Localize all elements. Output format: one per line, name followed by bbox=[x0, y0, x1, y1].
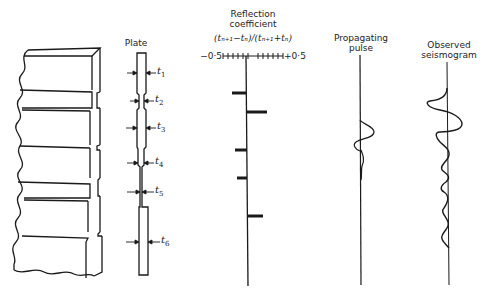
reflection-title-line1: Reflection bbox=[220, 9, 286, 19]
reflection-axis bbox=[223, 53, 283, 286]
observed-seismogram-trace bbox=[427, 62, 462, 285]
reflection-formula: (tₙ₊₁−tₙ)/(tₙ₊₁+tₙ) bbox=[206, 33, 300, 43]
axis-min-label: −0·5 bbox=[200, 51, 222, 61]
thickness-label-t6: t6 bbox=[161, 234, 170, 248]
plate-block-drawing bbox=[13, 48, 102, 278]
pulse-title-line1: Propagating bbox=[328, 33, 394, 43]
thickness-label-t5: t5 bbox=[155, 184, 164, 198]
reflection-spikes bbox=[232, 93, 267, 216]
seismogram-title-line1: Observed bbox=[416, 40, 482, 50]
reflection-title-line2: coefficient bbox=[220, 19, 286, 29]
diagram-canvas bbox=[0, 0, 486, 293]
axis-max-label: +0·5 bbox=[284, 51, 308, 61]
propagating-pulse-trace bbox=[354, 55, 374, 285]
thickness-label-t2: t2 bbox=[155, 93, 164, 107]
thickness-label-t4: t4 bbox=[155, 155, 164, 169]
pulse-title-line2: pulse bbox=[328, 43, 394, 53]
thickness-label-t1: t1 bbox=[157, 65, 166, 79]
thickness-label-t3: t3 bbox=[157, 120, 166, 134]
seismogram-title-line2: seismogram bbox=[416, 50, 482, 60]
plate-title: Plate bbox=[116, 38, 156, 48]
